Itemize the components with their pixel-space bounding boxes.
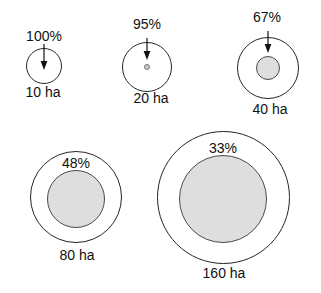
percent-label: 67%	[227, 9, 307, 25]
percent-label: 48%	[36, 155, 116, 171]
core-circle	[179, 155, 267, 243]
pointer-arrow-icon	[38, 44, 50, 70]
pointer-arrow-icon	[141, 38, 153, 60]
area-label: 20 ha	[106, 90, 196, 106]
area-label: 80 ha	[32, 247, 122, 263]
percent-label: 33%	[183, 140, 263, 156]
pointer-arrow-icon	[262, 31, 274, 53]
area-label: 160 ha	[179, 265, 269, 281]
patch-size-diagram: 100%10 ha95%20 ha67%40 ha48%80 ha33%160 …	[0, 0, 321, 293]
percent-label: 100%	[4, 28, 84, 44]
percent-label: 95%	[107, 16, 187, 32]
core-circle	[47, 170, 105, 228]
core-circle	[256, 56, 280, 80]
area-label: 40 ha	[225, 101, 315, 117]
core-circle	[144, 64, 150, 70]
area-label: 10 ha	[0, 84, 88, 100]
